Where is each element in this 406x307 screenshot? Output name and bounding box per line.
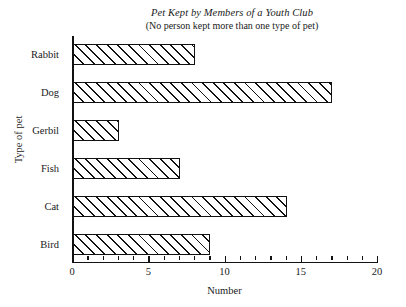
bar-row: [73, 150, 180, 188]
x-tick: [270, 256, 271, 260]
bar-row: [73, 112, 119, 150]
x-tick: [72, 256, 73, 263]
bar-row: [73, 74, 332, 112]
x-tick: [133, 256, 134, 260]
y-tick-label-cat: Cat: [44, 187, 59, 225]
y-tick-label-bird: Bird: [40, 225, 59, 263]
bar-bird: [73, 234, 210, 255]
x-tick-label-10: 10: [219, 266, 230, 277]
y-tick-label-dog: Dog: [41, 74, 59, 112]
x-tick-label-0: 0: [69, 266, 74, 277]
x-tick: [164, 256, 165, 260]
x-tick: [240, 256, 241, 260]
x-tick: [118, 256, 119, 260]
x-tick: [377, 256, 378, 263]
x-tick: [331, 256, 332, 260]
bar-gerbil: [73, 120, 119, 141]
bar-fish: [73, 158, 180, 179]
x-tick: [87, 256, 88, 260]
chart-subtitle: (No person kept more than one type of pe…: [72, 19, 392, 32]
x-tick: [316, 256, 317, 260]
bar-row: [73, 187, 287, 225]
x-tick: [347, 256, 348, 260]
y-tick-label-gerbil: Gerbil: [32, 112, 59, 150]
chart-title-block: Pet Kept by Members of a Youth Club (No …: [72, 6, 392, 32]
x-tick: [286, 256, 287, 260]
y-tick-label-rabbit: Rabbit: [31, 36, 59, 74]
bar-chart: Pet Kept by Members of a Youth Club (No …: [0, 0, 406, 307]
y-tick-label-fish: Fish: [41, 150, 59, 188]
bar-row: [73, 36, 195, 74]
x-tick: [362, 256, 363, 260]
x-tick: [255, 256, 256, 260]
x-tick-label-20: 20: [372, 266, 383, 277]
plot-area: [72, 36, 377, 263]
x-tick: [225, 256, 226, 263]
chart-title: Pet Kept by Members of a Youth Club: [72, 6, 392, 19]
bar-series: [73, 36, 377, 262]
x-tick-label-15: 15: [296, 266, 307, 277]
x-axis-ticks: [72, 256, 377, 264]
y-axis-tick-labels: RabbitDogGerbilFishCatBird: [0, 36, 66, 263]
bar-cat: [73, 196, 287, 217]
x-tick: [103, 256, 104, 260]
y-axis-title: Type of pet: [13, 95, 24, 185]
x-tick: [179, 256, 180, 260]
x-tick: [209, 256, 210, 260]
bar-rabbit: [73, 44, 195, 65]
x-tick: [148, 256, 149, 263]
x-axis-title: Number: [72, 285, 377, 296]
x-tick: [194, 256, 195, 260]
x-tick-label-5: 5: [146, 266, 151, 277]
bar-dog: [73, 82, 332, 103]
x-axis-tick-labels: 05101520: [72, 266, 377, 280]
x-tick: [301, 256, 302, 263]
